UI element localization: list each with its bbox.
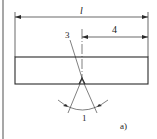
subfigure-label: a) — [120, 121, 127, 131]
diagram-canvas: l 4 3 1 a) — [0, 0, 157, 139]
callout-label-3: 3 — [65, 30, 70, 40]
callout-label-1: 1 — [82, 113, 87, 123]
weld-specimen-diagram: l 4 3 1 a) — [0, 0, 157, 139]
dimension-label-4: 4 — [112, 24, 117, 35]
dimension-label-l: l — [80, 5, 83, 16]
leader-line-3 — [70, 40, 82, 78]
